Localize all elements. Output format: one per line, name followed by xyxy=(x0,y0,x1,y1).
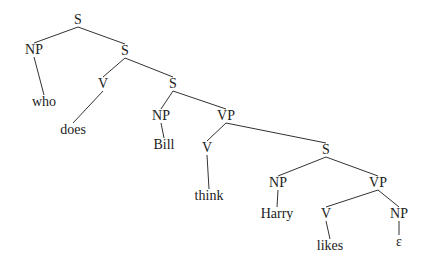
tree-edge-s1-s2 xyxy=(78,27,125,44)
tree-node-s3: S xyxy=(169,77,177,91)
tree-edge-v2-think xyxy=(207,155,209,189)
tree-edge-np3-harry xyxy=(277,190,278,207)
tree-node-who: who xyxy=(32,95,56,109)
tree-node-think: think xyxy=(195,189,224,203)
tree-edge-s2-v1 xyxy=(103,58,125,77)
tree-edge-s4-vp2 xyxy=(326,157,378,176)
tree-node-s2: S xyxy=(121,44,129,58)
tree-edge-s1-np1 xyxy=(34,27,78,43)
tree-edge-s3-np2 xyxy=(161,91,173,109)
tree-node-np1: NP xyxy=(25,43,43,57)
tree-node-bill: Bill xyxy=(153,138,174,152)
tree-node-eps: ε xyxy=(396,235,402,249)
tree-node-likes: likes xyxy=(317,239,343,253)
tree-node-np3: NP xyxy=(269,176,287,190)
tree-edge-np2-bill xyxy=(161,123,164,138)
tree-edge-vp1-v2 xyxy=(207,123,226,141)
tree-edge-s4-np3 xyxy=(278,157,326,176)
tree-edge-s3-vp1 xyxy=(173,91,226,109)
tree-edge-vp2-np4 xyxy=(378,190,399,207)
tree-node-v1: V xyxy=(98,77,108,91)
tree-node-np2: NP xyxy=(152,109,170,123)
tree-edge-v1-does xyxy=(73,91,103,123)
tree-node-vp1: VP xyxy=(217,109,235,123)
tree-node-v3: V xyxy=(321,207,331,221)
tree-edge-v3-likes xyxy=(326,221,330,239)
tree-node-s1: S xyxy=(74,13,82,27)
tree-node-np4: NP xyxy=(390,207,408,221)
tree-edge-s2-s3 xyxy=(125,58,173,77)
tree-edge-np1-who xyxy=(34,57,44,95)
tree-node-v2: V xyxy=(202,141,212,155)
tree-node-does: does xyxy=(60,123,86,137)
tree-node-harry: Harry xyxy=(261,207,294,221)
tree-node-s4: S xyxy=(322,143,330,157)
tree-edge-vp1-s4 xyxy=(226,123,326,143)
tree-node-vp2: VP xyxy=(369,176,387,190)
tree-edge-vp2-v3 xyxy=(326,190,378,207)
syntax-tree-diagram: SNPwhoSVdoesSNPBillVPVthinkSNPHarryVPVli… xyxy=(0,0,428,268)
